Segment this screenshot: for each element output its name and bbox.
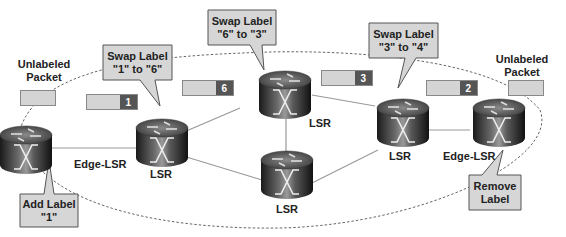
packet-body xyxy=(427,81,460,95)
label-tag: 2 xyxy=(460,81,477,95)
node-label-lsr-top: LSR xyxy=(309,117,331,130)
router-edge-right-icon xyxy=(473,99,525,147)
callout-line: "3" to "4" xyxy=(369,41,438,54)
packet-body xyxy=(509,81,543,95)
router-lsr-1-icon xyxy=(136,119,188,167)
label-tag: 3 xyxy=(355,71,372,85)
callout-line: Swap Label xyxy=(369,28,438,41)
packet-unlabeled-right xyxy=(508,80,544,96)
callout-line: Add Label xyxy=(20,198,78,211)
router-lsr-right-icon xyxy=(377,99,429,147)
packet-label-6: 6 xyxy=(182,80,234,96)
packet-label-2: 2 xyxy=(426,80,478,96)
mpls-diagram: Unlabeled Packet Unlabeled Packet 1 6 3 … xyxy=(0,0,566,237)
node-label-edge-right: Edge-LSR xyxy=(443,150,496,163)
packet-body xyxy=(21,91,55,105)
label-tag: 6 xyxy=(216,81,233,95)
packet-label-3: 3 xyxy=(321,70,373,86)
label-line: Unlabeled xyxy=(16,58,72,71)
callout-swap-1-6: Swap Label "1" to "6" xyxy=(103,50,172,76)
callout-swap-3-4: Swap Label "3" to "4" xyxy=(369,28,438,54)
callout-line: Label xyxy=(469,193,521,206)
callout-add-label: Add Label "1" xyxy=(20,198,78,224)
packet-body xyxy=(322,71,355,85)
callout-line: "1" xyxy=(20,211,78,224)
router-edge-left-icon xyxy=(0,126,52,174)
label-line: Packet xyxy=(494,66,550,79)
callout-line: Swap Label xyxy=(103,50,172,63)
callout-remove-label: Remove Label xyxy=(469,180,521,206)
node-label-lsr-bottom: LSR xyxy=(276,203,298,216)
callout-swap-6-3: Swap Label "6" to "3" xyxy=(208,15,276,41)
node-label-edge-left: Edge-LSR xyxy=(74,158,127,171)
node-label-lsr-right: LSR xyxy=(389,150,411,163)
unlabeled-packet-left-label: Unlabeled Packet xyxy=(16,58,72,84)
node-label-lsr-1: LSR xyxy=(150,168,172,181)
packet-body xyxy=(183,81,216,95)
label-line: Packet xyxy=(16,71,72,84)
packet-body xyxy=(87,95,120,109)
label-tag: 1 xyxy=(120,95,137,109)
callout-line: Remove xyxy=(469,180,521,193)
router-lsr-top-icon xyxy=(259,71,311,119)
callout-line: Swap Label xyxy=(208,15,276,28)
callout-line: "1" to "6" xyxy=(103,63,172,76)
packet-unlabeled-left xyxy=(20,90,56,106)
callout-line: "6" to "3" xyxy=(208,28,276,41)
router-lsr-bottom-icon xyxy=(261,151,313,199)
unlabeled-packet-right-label: Unlabeled Packet xyxy=(494,53,550,79)
packet-label-1: 1 xyxy=(86,94,138,110)
label-line: Unlabeled xyxy=(494,53,550,66)
